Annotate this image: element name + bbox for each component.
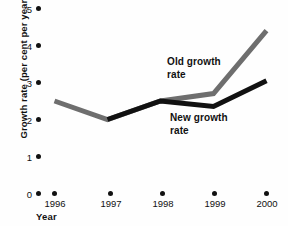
chart-screenshot: Growth rate (per cent per year) 0 1 2 3 … [0, 0, 288, 226]
series-label-new-growth-line1: New growth [170, 112, 228, 123]
series-label-new-growth-line2: rate [170, 125, 189, 136]
series-label-new-growth: New growth rate [170, 112, 250, 137]
series-label-old-growth-line1: Old growth [167, 56, 221, 67]
series-label-old-growth: Old growth rate [167, 56, 243, 81]
series-label-old-growth-line2: rate [167, 69, 186, 80]
